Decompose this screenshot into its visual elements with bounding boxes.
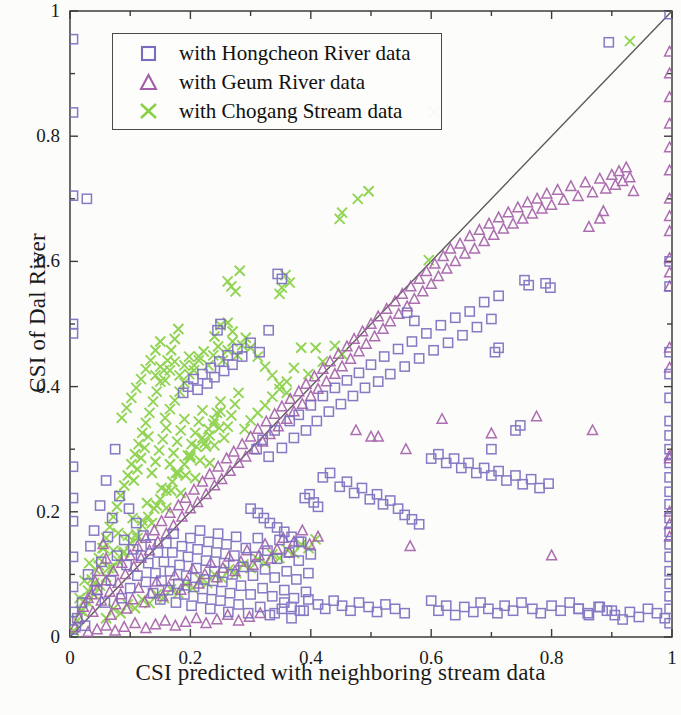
legend-label-geum: with Geum River data [179, 67, 365, 97]
y-tick-label: 1 [12, 0, 60, 22]
cross-marker-icon [131, 96, 165, 126]
x-axis-title: CSI predicted with neighboring stream da… [0, 660, 681, 686]
legend: with Hongcheon River data with Geum Rive… [112, 33, 442, 130]
square-marker-icon [131, 38, 165, 68]
x-tick-label: 0.2 [179, 647, 203, 669]
y-tick-label: 0.8 [12, 125, 60, 147]
y-tick-label: 0 [12, 626, 60, 648]
x-tick-label: 0.6 [419, 647, 443, 669]
y-tick-label: 0.2 [12, 501, 60, 523]
x-tick-label: 1 [667, 647, 677, 669]
legend-item-geum: with Geum River data [113, 67, 441, 97]
x-tick-label: 0.8 [540, 647, 564, 669]
legend-item-hongcheon: with Hongcheon River data [113, 38, 441, 68]
x-tick-label: 0 [65, 647, 75, 669]
y-axis-title: CSI of Dal River [25, 163, 51, 463]
scatter-plot-figure: CSI predicted with neighboring stream da… [0, 0, 681, 715]
y-tick-label: 0.4 [12, 376, 60, 398]
y-tick-label: 0.6 [12, 250, 60, 272]
legend-label-hongcheon: with Hongcheon River data [179, 38, 411, 68]
legend-item-chogang: with Chogang Stream data [113, 96, 441, 126]
legend-label-chogang: with Chogang Stream data [179, 96, 402, 126]
triangle-marker-icon [131, 67, 165, 97]
x-tick-label: 0.4 [299, 647, 323, 669]
